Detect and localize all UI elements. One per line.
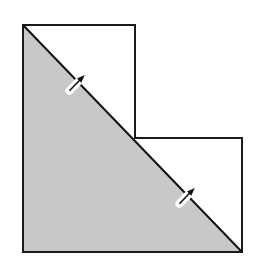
diagram-canvas [0, 0, 257, 263]
